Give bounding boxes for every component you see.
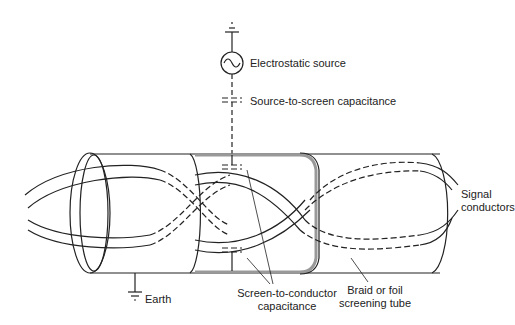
outer-tube	[70, 153, 448, 273]
top-ground-icon	[225, 22, 239, 52]
lower-capacitor-icon	[222, 248, 242, 271]
upper-capacitor-icon	[222, 155, 242, 169]
label-conductors: conductors	[461, 201, 515, 214]
earth-icon	[128, 273, 142, 300]
source-capacitor-icon	[222, 98, 242, 154]
label-electrostatic-source: Electrostatic source	[250, 57, 346, 70]
label-signal: Signal	[461, 188, 492, 201]
signal-conductors	[25, 162, 458, 252]
tube-line-1: Braid or foil	[325, 284, 425, 297]
label-screening-tube: Braid or foil screening tube	[325, 284, 425, 310]
tube-line-2: screening tube	[325, 297, 425, 310]
label-earth: Earth	[145, 293, 171, 306]
electrostatic-source-icon	[221, 52, 243, 74]
label-source-capacitance: Source-to-screen capacitance	[250, 95, 396, 108]
